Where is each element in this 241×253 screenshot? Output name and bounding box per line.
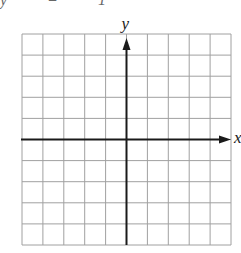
y-axis-arrow-icon — [123, 38, 131, 50]
y-axis-label: y — [122, 15, 130, 32]
x-axis-label: x — [234, 129, 241, 146]
axes — [21, 38, 231, 245]
x-axis-arrow-icon — [219, 136, 231, 144]
coordinate-grid — [0, 0, 241, 253]
